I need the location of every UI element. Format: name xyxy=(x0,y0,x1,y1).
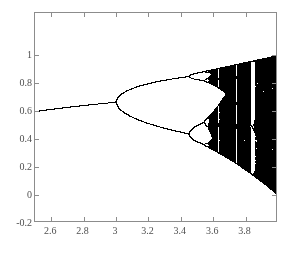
y-tick-2 xyxy=(35,167,39,168)
x-tick-3 xyxy=(148,217,149,221)
x-tick-top-3 xyxy=(148,13,149,17)
x-tick-0 xyxy=(51,217,52,221)
x-tick-6 xyxy=(246,217,247,221)
y-tick-label-1: 0 xyxy=(27,189,32,200)
bifurcation-diagram-figure: 2.62.833.23.43.63.8-0.200.20.40.60.81 xyxy=(0,0,291,254)
y-tick-right-4 xyxy=(272,111,276,112)
x-tick-top-0 xyxy=(51,13,52,17)
y-tick-5 xyxy=(35,83,39,84)
y-tick-4 xyxy=(35,111,39,112)
x-tick-2 xyxy=(116,217,117,221)
x-tick-label-6: 3.8 xyxy=(238,225,251,236)
y-tick-right-2 xyxy=(272,167,276,168)
y-tick-label-4: 0.6 xyxy=(20,105,33,116)
y-tick-label-0: -0.2 xyxy=(16,217,32,228)
plot-area xyxy=(34,12,277,222)
x-tick-top-4 xyxy=(181,13,182,17)
y-tick-right-5 xyxy=(272,83,276,84)
x-tick-top-2 xyxy=(116,13,117,17)
x-tick-label-2: 3 xyxy=(113,225,118,236)
bifurcation-scatter-canvas xyxy=(35,13,277,222)
y-tick-label-3: 0.4 xyxy=(20,133,33,144)
y-tick-label-6: 1 xyxy=(27,49,32,60)
y-tick-label-2: 0.2 xyxy=(20,161,33,172)
x-tick-label-3: 3.2 xyxy=(141,225,154,236)
y-tick-right-6 xyxy=(272,55,276,56)
x-tick-top-1 xyxy=(84,13,85,17)
y-tick-right-1 xyxy=(272,195,276,196)
y-tick-1 xyxy=(35,195,39,196)
x-tick-label-4: 3.4 xyxy=(174,225,187,236)
x-tick-1 xyxy=(84,217,85,221)
x-tick-5 xyxy=(213,217,214,221)
y-tick-right-3 xyxy=(272,139,276,140)
x-tick-top-5 xyxy=(213,13,214,17)
x-tick-label-1: 2.8 xyxy=(76,225,89,236)
x-tick-label-5: 3.6 xyxy=(206,225,219,236)
y-tick-label-5: 0.8 xyxy=(20,77,33,88)
x-tick-label-0: 2.6 xyxy=(44,225,57,236)
y-tick-6 xyxy=(35,55,39,56)
x-tick-top-6 xyxy=(246,13,247,17)
y-tick-3 xyxy=(35,139,39,140)
x-tick-4 xyxy=(181,217,182,221)
